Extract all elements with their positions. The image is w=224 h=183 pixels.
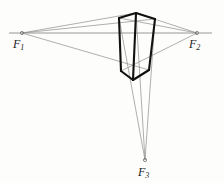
box-edge-vertical-front-edge: [133, 13, 136, 80]
perspective-diagram: F1 F2 F3: [0, 0, 224, 183]
box-edge-top-right-edge: [136, 13, 155, 19]
vanishing-point-label-F1-subscript: 1: [20, 43, 24, 52]
vanishing-point-label-F3: F3: [138, 166, 149, 178]
diagram-canvas: [0, 0, 224, 183]
construction-line-f3-to-box-top-left: [119, 18, 145, 160]
construction-line-f3-to-box-top-front: [136, 13, 145, 160]
vanishing-point-dots-group: [20, 31, 198, 161]
vanishing-point-label-F2: F2: [189, 38, 200, 50]
construction-line-f2-to-box-bottom-left: [121, 33, 197, 71]
vanishing-point-label-F3-subscript: 3: [145, 171, 149, 180]
vanishing-point-label-F2-subscript: 2: [196, 43, 200, 52]
box-edge-bottom-left-edge: [121, 71, 133, 80]
construction-lines-group: [22, 13, 197, 160]
construction-line-f1-to-box-bottom-right: [22, 33, 149, 70]
vanishing-point-label-F1: F1: [13, 38, 24, 50]
box-edge-bottom-right-edge: [133, 70, 149, 80]
